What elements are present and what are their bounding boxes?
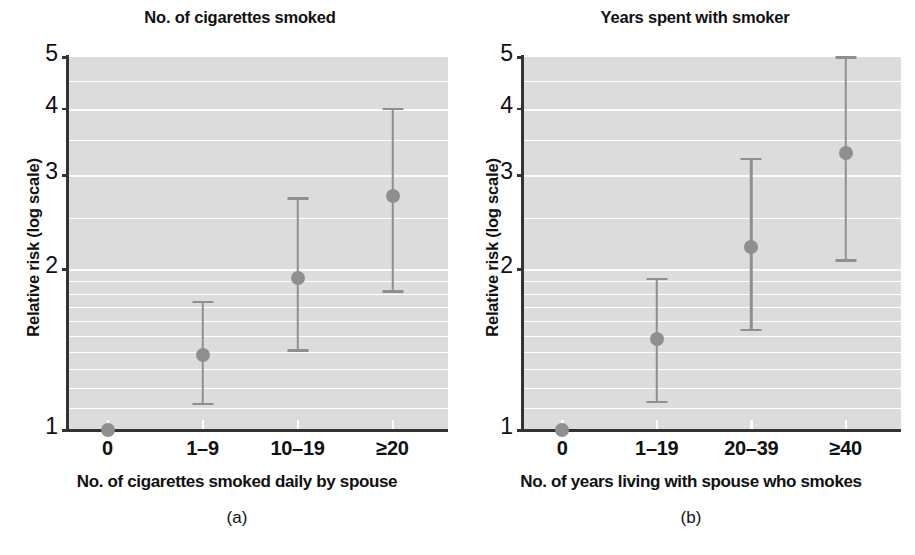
y-tick-label: 4	[45, 94, 58, 117]
y-tick-mark: 2	[62, 268, 69, 271]
x-tick-label: ≥20	[376, 437, 408, 460]
gridline	[68, 294, 448, 295]
panel-b-x-axis-line	[521, 429, 901, 432]
error-bar-cap	[835, 56, 856, 59]
x-tick-label: 1–19	[635, 437, 678, 460]
x-tick-label: 1–9	[186, 437, 218, 460]
error-bar-cap	[287, 197, 308, 200]
error-bar-cap	[646, 278, 667, 281]
y-tick-label: 2	[500, 254, 513, 277]
gridline	[523, 369, 901, 370]
x-tick-label: 20–39	[724, 437, 778, 460]
panel-a-x-axis-line	[66, 429, 448, 432]
gridline	[68, 369, 448, 370]
y-tick-mark: 4	[517, 108, 524, 111]
error-bar-cap	[741, 158, 762, 161]
x-tick-label: 10–19	[270, 437, 324, 460]
gridline	[523, 321, 901, 322]
error-bar-cap	[382, 290, 403, 293]
y-tick-mark: 1	[517, 429, 524, 432]
error-bar-cap	[646, 401, 667, 404]
y-tick-mark: 3	[62, 174, 69, 177]
gridline	[523, 281, 901, 282]
gridline	[523, 352, 901, 353]
panel-a-caption: (a)	[0, 508, 458, 528]
y-tick-mark: 2	[517, 268, 524, 271]
y-tick-label: 3	[500, 160, 513, 183]
data-point	[839, 146, 853, 160]
panel-b-y-axis-line	[521, 55, 524, 432]
error-bar-cap	[192, 403, 213, 406]
y-tick-label: 5	[45, 42, 58, 65]
y-tick-label: 1	[500, 415, 513, 438]
panel-a-title: No. of cigarettes smoked	[0, 8, 458, 27]
data-point	[386, 189, 400, 203]
figure-root: No. of cigarettes smoked Relative risk (…	[0, 0, 915, 555]
error-bar-cap	[192, 301, 213, 304]
data-point	[101, 423, 115, 437]
x-tick-mark	[392, 420, 395, 429]
y-tick-mark: 5	[517, 56, 524, 59]
panel-b-x-axis-label: No. of years living with spouse who smok…	[457, 472, 915, 492]
panel-b-caption: (b)	[457, 508, 915, 528]
x-tick-label: ≥40	[830, 437, 862, 460]
gridline	[68, 336, 448, 337]
data-point	[291, 271, 305, 285]
gridline	[68, 321, 448, 322]
y-tick-label: 5	[500, 42, 513, 65]
data-point	[196, 348, 210, 362]
y-tick-mark: 5	[62, 56, 69, 59]
data-point	[650, 332, 664, 346]
y-tick-label: 2	[45, 254, 58, 277]
error-bar-cap	[382, 108, 403, 111]
gridline	[523, 269, 901, 271]
panel-a-y-axis-label: Relative risk (log scale)	[24, 88, 43, 408]
panel-b-title: Years spent with smoker	[457, 8, 915, 27]
y-tick-mark: 3	[517, 174, 524, 177]
data-point	[555, 423, 569, 437]
y-tick-mark: 1	[62, 429, 69, 432]
gridline	[68, 352, 448, 353]
gridline	[523, 388, 901, 389]
gridline	[68, 408, 448, 409]
y-tick-label: 3	[45, 160, 58, 183]
x-tick-mark	[845, 420, 848, 429]
gridline	[523, 307, 901, 308]
x-tick-label: 0	[557, 437, 568, 460]
panel-a: No. of cigarettes smoked Relative risk (…	[0, 0, 458, 555]
y-tick-label: 1	[45, 415, 58, 438]
y-tick-mark: 4	[62, 108, 69, 111]
x-tick-label: 0	[102, 437, 113, 460]
x-tick-mark	[656, 420, 659, 429]
y-tick-label: 4	[500, 94, 513, 117]
x-tick-mark	[297, 420, 300, 429]
gridline	[523, 408, 901, 409]
panel-a-y-axis-line	[66, 55, 69, 432]
error-bar-cap	[741, 329, 762, 332]
gridline	[68, 388, 448, 389]
panel-b-y-axis-label: Relative risk (log scale)	[483, 88, 502, 408]
data-point	[744, 240, 758, 254]
gridline	[68, 307, 448, 308]
x-tick-mark	[202, 420, 205, 429]
gridline	[523, 336, 901, 337]
gridline	[523, 294, 901, 295]
panel-a-x-axis-label: No. of cigarettes smoked daily by spouse	[0, 472, 458, 492]
error-bar-cap	[287, 349, 308, 352]
panel-b: Years spent with smoker Relative risk (l…	[457, 0, 915, 555]
error-bar-cap	[835, 259, 856, 262]
gridline	[68, 81, 448, 82]
x-tick-mark	[750, 420, 753, 429]
